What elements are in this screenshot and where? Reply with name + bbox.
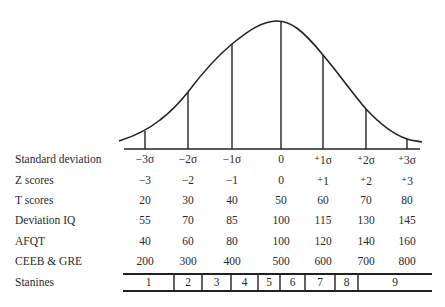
cell: 800 bbox=[387, 255, 427, 267]
cell: ⁺3σ bbox=[387, 153, 427, 167]
label-t-scores: T scores bbox=[15, 194, 53, 206]
cell: 100 bbox=[261, 214, 301, 226]
stanine-cell: 8 bbox=[335, 276, 358, 288]
cell: 400 bbox=[212, 255, 252, 267]
cell: 160 bbox=[387, 235, 427, 247]
stanine-cell: 5 bbox=[258, 276, 280, 288]
cell: 200 bbox=[125, 255, 165, 267]
cell: −2 bbox=[168, 174, 208, 186]
cell: 55 bbox=[125, 214, 165, 226]
cell: 80 bbox=[387, 194, 427, 206]
cell: 700 bbox=[346, 255, 386, 267]
stanine-cell: 2 bbox=[174, 276, 202, 288]
label-stanines: Stanines bbox=[15, 276, 54, 288]
label-standard-deviation: Standard deviation bbox=[15, 153, 102, 165]
stanine-cell: 4 bbox=[231, 276, 258, 288]
cell: 40 bbox=[125, 235, 165, 247]
sigma-lines bbox=[145, 21, 407, 149]
cell: 500 bbox=[261, 255, 301, 267]
cell: 70 bbox=[168, 214, 208, 226]
cell: 300 bbox=[168, 255, 208, 267]
label-afqt: AFQT bbox=[15, 235, 45, 247]
cell: 120 bbox=[303, 235, 343, 247]
cell: ⁺1σ bbox=[303, 153, 343, 167]
label-z-scores: Z scores bbox=[15, 174, 54, 186]
cell: 30 bbox=[168, 194, 208, 206]
cell: 20 bbox=[125, 194, 165, 206]
cell: 0 bbox=[261, 174, 301, 186]
stanine-cell: 9 bbox=[358, 276, 432, 288]
bell-curve bbox=[119, 21, 422, 142]
stanine-cell: 3 bbox=[202, 276, 231, 288]
cell: 130 bbox=[346, 214, 386, 226]
cell: 115 bbox=[303, 214, 343, 226]
cell: 60 bbox=[168, 235, 208, 247]
cell: ⁺3 bbox=[387, 174, 427, 188]
cell: −1 bbox=[212, 174, 252, 186]
label-deviation-iq: Deviation IQ bbox=[15, 214, 75, 226]
cell: 100 bbox=[261, 235, 301, 247]
cell: 0 bbox=[261, 153, 301, 165]
cell: 40 bbox=[212, 194, 252, 206]
cell: 600 bbox=[303, 255, 343, 267]
cell: 60 bbox=[303, 194, 343, 206]
cell: −3 bbox=[125, 174, 165, 186]
stanine-cell: 1 bbox=[123, 276, 174, 288]
cell: −1σ bbox=[212, 153, 252, 165]
label-ceeb-gre: CEEB & GRE bbox=[15, 255, 82, 267]
cell: ⁺1 bbox=[303, 174, 343, 188]
stanine-cell: 6 bbox=[280, 276, 305, 288]
cell: 140 bbox=[346, 235, 386, 247]
cell: 145 bbox=[387, 214, 427, 226]
cell: 80 bbox=[212, 235, 252, 247]
cell: 70 bbox=[346, 194, 386, 206]
cell: −2σ bbox=[168, 153, 208, 165]
cell: 85 bbox=[212, 214, 252, 226]
cell: 50 bbox=[261, 194, 301, 206]
stanine-cell: 7 bbox=[305, 276, 335, 288]
cell: ⁺2σ bbox=[346, 153, 386, 167]
cell: −3σ bbox=[125, 153, 165, 165]
cell: ⁺2 bbox=[346, 174, 386, 188]
